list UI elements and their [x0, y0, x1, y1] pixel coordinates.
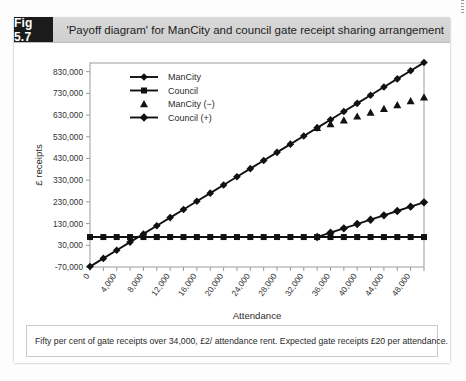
series-marker [274, 234, 280, 240]
series-marker [408, 234, 414, 240]
x-axis-tick-label-group: 36,000 [309, 271, 332, 298]
x-axis-tick-label-group: 24,000 [229, 271, 252, 298]
series-marker [421, 234, 427, 240]
y-axis-tick-label: 30,000 [58, 240, 84, 250]
x-axis-tick-label: 8,000 [125, 271, 145, 294]
series-marker [340, 224, 348, 232]
series-marker [420, 93, 428, 100]
figure-body: -70,00030,000130,000230,000330,000430,00… [14, 43, 450, 363]
legend-marker-square [141, 88, 147, 94]
series-line [90, 63, 424, 267]
series-marker [301, 234, 307, 240]
series-1 [87, 234, 427, 240]
series-marker [393, 207, 401, 215]
x-axis-tick-label-group: 40,000 [336, 271, 359, 298]
series-marker [354, 234, 360, 240]
series-marker [406, 202, 414, 210]
legend-label: ManCity [168, 72, 202, 82]
x-axis-title: Attendance [233, 310, 282, 319]
series-marker [366, 215, 374, 223]
series-marker [407, 97, 415, 104]
chart-legend: ManCityCouncilManCity (−)Council (+) [130, 72, 215, 123]
series-marker [154, 234, 160, 240]
x-axis-tick-label-group: 32,000 [283, 271, 306, 298]
series-marker [368, 234, 374, 240]
series-marker [114, 234, 120, 240]
y-axis-tick-label: 330,000 [53, 175, 83, 185]
x-axis-tick-label: 12,000 [149, 271, 172, 298]
x-axis-tick-label: 32,000 [283, 271, 306, 298]
legend-label: ManCity (−) [168, 99, 215, 109]
x-axis-tick-label-group: 28,000 [256, 271, 279, 298]
series-marker [394, 234, 400, 240]
x-axis-tick-label-group: 48,000 [390, 271, 413, 298]
figure-caption-text: Fifty per cent of gate receipts over 34,… [27, 336, 456, 347]
figure-header: Fig 5.7 'Payoff diagram' for ManCity and… [14, 17, 450, 43]
chart-container: -70,00030,000130,000230,000330,000430,00… [26, 51, 436, 319]
screenshot-page: Fig 5.7 'Payoff diagram' for ManCity and… [0, 0, 466, 381]
legend-label: Council (+) [168, 113, 212, 123]
x-axis-tick-label: 44,000 [363, 271, 386, 298]
x-axis-tick-label: 4,000 [98, 271, 118, 294]
series-marker [207, 234, 213, 240]
series-marker [393, 101, 401, 108]
series-marker [87, 234, 93, 240]
series-marker [367, 109, 375, 116]
series-marker [340, 116, 348, 123]
series-marker [420, 198, 428, 206]
figure-title: 'Payoff diagram' for ManCity and council… [53, 17, 451, 42]
series-marker [140, 234, 146, 240]
y-axis-tick-label: 630,000 [53, 110, 83, 120]
series-marker [181, 234, 187, 240]
figure-card: Fig 5.7 'Payoff diagram' for ManCity and… [14, 17, 450, 362]
series-marker [261, 234, 267, 240]
x-axis-tick-label-group: 12,000 [149, 271, 172, 298]
x-axis-tick-label-group: 4,000 [98, 271, 118, 294]
legend-marker-diamond [140, 113, 148, 121]
x-axis-tick-label-group: 20,000 [202, 271, 225, 298]
y-axis-tick-label: 830,000 [53, 67, 83, 77]
figure-caption-box: Fifty per cent of gate receipts over 34,… [26, 325, 438, 357]
x-axis-tick-label-group: 8,000 [125, 271, 145, 294]
x-axis-tick-label: 36,000 [309, 271, 332, 298]
series-marker [194, 234, 200, 240]
x-axis-tick-label: 48,000 [390, 271, 413, 298]
y-axis-tick-label: 530,000 [53, 132, 83, 142]
x-axis-tick-label-group: 44,000 [363, 271, 386, 298]
legend-marker-triangle [140, 100, 148, 107]
payoff-diagram-chart: -70,00030,000130,000230,000330,000430,00… [26, 51, 436, 319]
series-marker [234, 234, 240, 240]
legend-marker-circle [140, 73, 148, 81]
series-marker [341, 234, 347, 240]
x-axis-tick-label-group: 16,000 [176, 271, 199, 298]
series-marker [287, 234, 293, 240]
series-marker [247, 234, 253, 240]
series-marker [353, 112, 361, 119]
x-axis-tick-label: 0 [81, 271, 92, 281]
x-axis-tick-label: 40,000 [336, 271, 359, 298]
y-axis-tick-label: 230,000 [53, 197, 83, 207]
series-marker [167, 234, 173, 240]
series-marker [221, 234, 227, 240]
y-axis-tick-label: 730,000 [53, 88, 83, 98]
series-marker [381, 234, 387, 240]
x-axis-tick-label-group: 0 [81, 271, 92, 281]
y-axis-title-group: £ receipts [33, 144, 44, 186]
y-axis-tick-label: -70,000 [55, 262, 84, 272]
series-marker [100, 234, 106, 240]
x-axis-tick-label: 28,000 [256, 271, 279, 298]
x-axis-tick-label: 24,000 [229, 271, 252, 298]
series-marker [127, 234, 133, 240]
series-marker [380, 105, 388, 112]
x-axis-tick-label: 16,000 [176, 271, 199, 298]
scan-edge-artefact [461, 0, 464, 14]
x-axis-tick-label: 20,000 [202, 271, 225, 298]
figure-number-badge: Fig 5.7 [14, 17, 53, 42]
y-axis-title: £ receipts [33, 144, 44, 186]
legend-label: Council [168, 86, 198, 96]
series-marker [353, 220, 361, 228]
y-axis-tick-label: 130,000 [53, 219, 83, 229]
series-marker [380, 211, 388, 219]
y-axis-tick-label: 430,000 [53, 153, 83, 163]
